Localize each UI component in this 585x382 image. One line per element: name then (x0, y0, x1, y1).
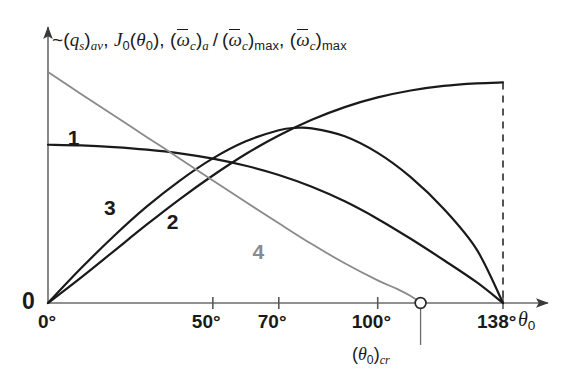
x-tick-label-138: 138° (477, 312, 516, 331)
curve-label-3: 3 (104, 197, 116, 218)
x-axis-title-base: θ (518, 308, 528, 330)
x-axis-title: θ0 (518, 309, 535, 333)
annotations-group (415, 82, 503, 345)
curve-label-2: 2 (167, 211, 179, 232)
data-curves-group (48, 72, 503, 303)
x-tick-label-0: 0° (38, 312, 56, 331)
theta-critical-annotation-label: (θ0)cr (352, 345, 390, 366)
y-axis-title: ~(qs)av, J0(θ0), (ωc)a / (ωc)max, (ωc)ma… (52, 30, 347, 53)
curve-2 (48, 127, 503, 303)
origin-zero-label: 0 (22, 290, 35, 313)
figure-container: ~(qs)av, J0(θ0), (ωc)a / (ωc)max, (ωc)ma… (0, 0, 585, 382)
x-tick-label-70: 70° (258, 312, 287, 331)
theta-critical-open-circle-marker (415, 298, 426, 309)
curve-label-1: 1 (68, 127, 80, 148)
x-tick-label-100: 100° (352, 312, 391, 331)
curve-1 (48, 145, 503, 303)
curve-3 (48, 82, 503, 303)
axes-group (48, 27, 548, 303)
curve-4 (48, 72, 421, 303)
curve-label-4: 4 (252, 241, 264, 262)
x-tick-label-50: 50° (192, 312, 221, 331)
x-axis-title-sub: 0 (528, 318, 536, 333)
